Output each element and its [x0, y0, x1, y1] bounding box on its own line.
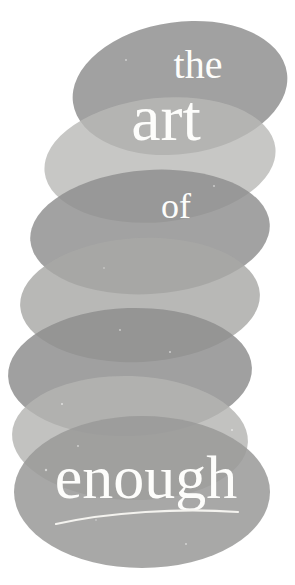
speckle-9 [185, 543, 187, 545]
speckle-2 [45, 469, 47, 471]
speckle-0 [61, 403, 63, 405]
speckle-10 [95, 519, 97, 521]
speckle-5 [103, 267, 105, 269]
title-line-art: art [131, 81, 201, 154]
speckle-7 [125, 59, 127, 61]
title-line-of: of [161, 186, 191, 226]
book-cover: the art of enough [0, 0, 295, 585]
speckle-8 [231, 429, 233, 431]
cover-artwork: the art of enough [0, 0, 295, 585]
speckle-4 [169, 351, 171, 353]
title-line-enough: enough [55, 443, 238, 511]
speckle-3 [119, 329, 121, 331]
speckle-6 [213, 185, 215, 187]
